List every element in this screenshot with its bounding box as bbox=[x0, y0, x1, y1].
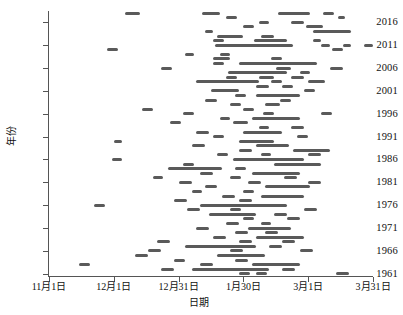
data-segment bbox=[142, 108, 153, 111]
data-segment bbox=[308, 153, 321, 156]
data-segment bbox=[202, 12, 219, 15]
data-segment bbox=[107, 48, 118, 51]
data-segment bbox=[192, 190, 203, 193]
data-segment bbox=[243, 25, 254, 28]
data-segment bbox=[261, 222, 272, 225]
y-tick-label: 1996 bbox=[354, 109, 398, 119]
data-segment bbox=[256, 144, 288, 147]
y-tick bbox=[43, 22, 49, 23]
data-segment bbox=[261, 195, 304, 198]
y-tick bbox=[43, 159, 49, 160]
data-segment bbox=[114, 140, 123, 143]
data-segment bbox=[284, 176, 297, 179]
data-segment bbox=[308, 80, 325, 83]
data-segment bbox=[256, 94, 299, 97]
data-segment bbox=[265, 103, 280, 106]
x-tick-label: 11月1日 bbox=[19, 281, 79, 292]
data-segment bbox=[278, 12, 310, 15]
x-axis-title: 日期 bbox=[0, 294, 398, 309]
y-tick-label: 1961 bbox=[354, 269, 398, 279]
data-segment bbox=[196, 131, 209, 134]
data-segment bbox=[243, 217, 254, 220]
y-tick bbox=[43, 182, 49, 183]
data-segment bbox=[248, 227, 291, 230]
data-segment bbox=[239, 62, 317, 65]
data-segment bbox=[187, 208, 200, 211]
data-segment bbox=[196, 227, 209, 230]
x-axis-line bbox=[48, 276, 373, 277]
data-segment bbox=[248, 181, 261, 184]
data-segment bbox=[274, 163, 322, 166]
data-segment bbox=[297, 135, 308, 138]
y-tick-label: 1981 bbox=[354, 177, 398, 187]
data-segment bbox=[321, 112, 332, 115]
data-segment bbox=[282, 240, 295, 243]
data-segment bbox=[213, 57, 230, 60]
data-segment bbox=[338, 16, 344, 19]
data-segment bbox=[230, 176, 241, 179]
data-segment bbox=[217, 254, 265, 257]
data-segment bbox=[261, 35, 274, 38]
data-segment bbox=[211, 89, 239, 92]
data-segment bbox=[263, 112, 274, 115]
data-segment bbox=[153, 176, 164, 179]
data-segment bbox=[256, 236, 304, 239]
data-segment bbox=[243, 131, 282, 134]
data-segment bbox=[220, 53, 231, 56]
data-segment bbox=[213, 135, 224, 138]
data-segment bbox=[157, 240, 170, 243]
y-tick-label: 2001 bbox=[354, 86, 398, 96]
data-segment bbox=[291, 21, 304, 24]
y-tick-label: 1991 bbox=[354, 132, 398, 142]
data-segment bbox=[287, 217, 300, 220]
data-segment bbox=[304, 208, 317, 211]
data-segment bbox=[256, 85, 269, 88]
y-tick bbox=[43, 274, 49, 275]
data-segment bbox=[226, 16, 237, 19]
data-segment bbox=[265, 185, 310, 188]
data-segment bbox=[217, 153, 228, 156]
data-segment bbox=[313, 39, 322, 42]
data-segment bbox=[183, 163, 194, 166]
data-segment bbox=[161, 67, 172, 70]
data-segment bbox=[243, 190, 254, 193]
data-segment bbox=[192, 268, 270, 271]
data-segment bbox=[235, 94, 246, 97]
data-segment bbox=[274, 213, 287, 216]
y-tick bbox=[43, 137, 49, 138]
data-segment bbox=[205, 30, 214, 33]
data-segment bbox=[185, 245, 256, 248]
data-segment bbox=[306, 25, 323, 28]
data-segment bbox=[213, 236, 226, 239]
data-segment bbox=[205, 99, 218, 102]
y-tick bbox=[43, 91, 49, 92]
data-segment bbox=[308, 181, 321, 184]
data-segment bbox=[226, 76, 237, 79]
data-segment bbox=[185, 53, 194, 56]
data-segment bbox=[125, 12, 140, 15]
data-segment bbox=[323, 12, 334, 15]
data-segment bbox=[330, 67, 343, 70]
data-segment bbox=[239, 272, 250, 275]
x-tick-label: 12月1日 bbox=[84, 281, 144, 292]
data-segment bbox=[259, 76, 274, 79]
data-segment bbox=[293, 149, 330, 152]
y-tick-label: 2016 bbox=[354, 17, 398, 27]
data-segment bbox=[183, 112, 194, 115]
y-tick bbox=[43, 205, 49, 206]
data-segment bbox=[261, 153, 272, 156]
data-segment bbox=[282, 85, 293, 88]
data-segment bbox=[332, 48, 343, 51]
x-tick-label: 3月1日 bbox=[278, 281, 338, 292]
data-segment bbox=[343, 44, 352, 47]
data-segment bbox=[79, 263, 90, 266]
data-segment bbox=[233, 158, 304, 161]
y-tick-label: 1976 bbox=[354, 200, 398, 210]
y-tick-label: 2006 bbox=[354, 63, 398, 73]
y-tick-label: 1971 bbox=[354, 223, 398, 233]
data-segment bbox=[259, 21, 270, 24]
data-segment bbox=[233, 121, 248, 124]
y-tick bbox=[43, 228, 49, 229]
y-tick bbox=[43, 251, 49, 252]
data-segment bbox=[220, 117, 231, 120]
